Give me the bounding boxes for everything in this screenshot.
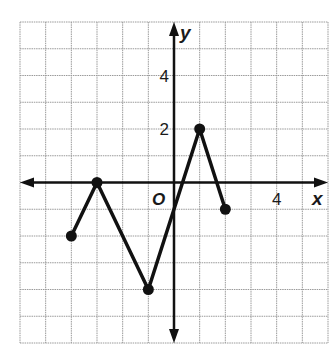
origin-label: O <box>152 190 165 209</box>
y-axis-arrow-up-icon <box>169 22 179 36</box>
y-tick-label: 2 <box>160 120 169 139</box>
x-axis-arrow-right-icon <box>314 178 328 188</box>
x-axis-arrow-left-icon <box>20 178 34 188</box>
x-tick-labels: 4 <box>272 190 281 209</box>
coordinate-plane: x y O 4 42 <box>0 0 333 347</box>
x-axis-label: x <box>311 188 324 209</box>
y-tick-label: 4 <box>160 67 169 86</box>
data-point <box>194 124 205 135</box>
axis-labels: x y O 4 42 <box>152 22 324 209</box>
y-axis-label: y <box>179 22 192 43</box>
axes <box>20 22 328 343</box>
data-point <box>66 231 77 242</box>
data-point <box>143 284 154 295</box>
x-tick-label: 4 <box>272 190 281 209</box>
data-point <box>220 204 231 215</box>
y-axis-arrow-down-icon <box>169 329 179 343</box>
data-point <box>92 177 103 188</box>
